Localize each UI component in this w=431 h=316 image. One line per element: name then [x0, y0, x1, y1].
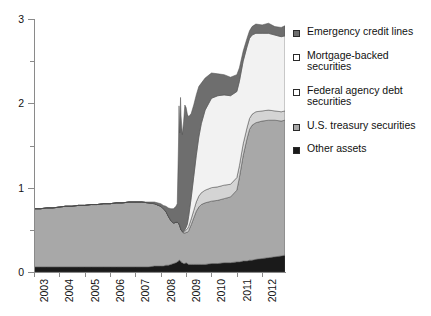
legend-item-label: U.S. treasury securities — [307, 120, 416, 132]
x-tick-label: 2010 — [216, 279, 227, 302]
x-tick-label: 2003 — [39, 279, 50, 302]
stacked-area-chart: 0123 20032004200520062007200820092010201… — [0, 0, 431, 316]
x-tick — [186, 272, 187, 277]
plot-area — [34, 19, 285, 272]
x-tick-label: 2012 — [267, 279, 278, 302]
y-tick-major — [28, 103, 34, 104]
legend-swatch-icon — [293, 89, 300, 96]
y-tick-label: 2 — [2, 98, 24, 109]
legend-swatch-icon — [293, 124, 300, 131]
x-tick-label: 2005 — [90, 279, 101, 302]
y-axis-line — [34, 19, 35, 273]
legend-item[interactable]: Emergency credit lines — [293, 26, 429, 38]
x-tick — [237, 272, 238, 277]
chart-legend: Emergency credit linesMortgage-backed se… — [293, 26, 429, 167]
x-tick-label: 2007 — [140, 279, 151, 302]
y-tick-major — [28, 19, 34, 20]
y-tick-label: 3 — [2, 14, 24, 25]
x-tick — [59, 272, 60, 277]
legend-swatch-icon — [293, 147, 300, 154]
legend-swatch-icon — [293, 54, 300, 61]
x-tick-label: 2011 — [242, 279, 253, 302]
x-tick — [161, 272, 162, 277]
y-tick-minor — [30, 230, 34, 231]
legend-item[interactable]: Federal agency debt securities — [293, 85, 429, 108]
x-tick — [211, 272, 212, 277]
x-tick — [262, 272, 263, 277]
x-tick — [135, 272, 136, 277]
x-tick — [34, 272, 35, 277]
legend-item[interactable]: U.S. treasury securities — [293, 120, 429, 132]
legend-item[interactable]: Mortgage-backed securities — [293, 50, 429, 73]
legend-item[interactable]: Other assets — [293, 143, 429, 155]
x-tick-label: 2009 — [191, 279, 202, 302]
legend-item-label: Emergency credit lines — [307, 26, 413, 38]
x-tick-label: 2006 — [115, 279, 126, 302]
legend-swatch-icon — [293, 30, 300, 37]
y-tick-major — [28, 188, 34, 189]
x-tick-label: 2004 — [64, 279, 75, 302]
area-series-canvas — [34, 19, 285, 272]
x-tick — [110, 272, 111, 277]
y-tick-label: 1 — [2, 183, 24, 194]
y-tick-minor — [30, 61, 34, 62]
legend-item-label: Mortgage-backed securities — [307, 50, 429, 73]
x-tick — [85, 272, 86, 277]
y-tick-label: 0 — [2, 267, 24, 278]
area-band-u-s-treasury-securities — [34, 120, 285, 267]
x-tick-label: 2008 — [166, 279, 177, 302]
legend-item-label: Other assets — [307, 143, 367, 155]
y-tick-minor — [30, 146, 34, 147]
legend-item-label: Federal agency debt securities — [307, 85, 429, 108]
